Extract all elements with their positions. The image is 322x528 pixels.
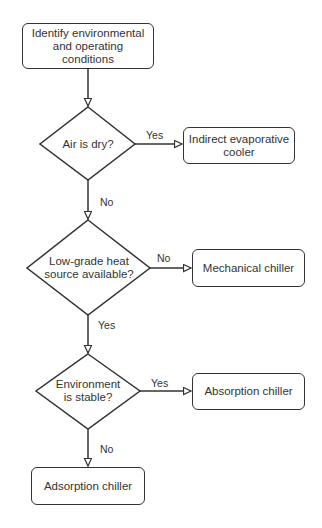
- edge-label-air-dry-yes: Yes: [146, 129, 163, 141]
- node-identify-conditions-label: Identify environmental and operating con…: [27, 27, 149, 66]
- node-identify-conditions: Identify environmental and operating con…: [22, 23, 154, 69]
- edge-label-stable-yes: Yes: [151, 377, 168, 389]
- decision-air-dry: Air is dry?: [48, 136, 128, 152]
- decision-stable: Environment is stable?: [40, 377, 136, 405]
- decision-stable-label: Environment is stable?: [56, 378, 121, 404]
- node-absorption-chiller: Absorption chiller: [192, 373, 305, 410]
- node-absorption-chiller-label: Absorption chiller: [204, 385, 292, 398]
- node-mechanical-chiller: Mechanical chiller: [192, 249, 305, 287]
- decision-heat-source-label: Low-grade heat source available?: [44, 255, 134, 281]
- edge-label-heat-source-yes: Yes: [98, 319, 115, 331]
- decision-air-dry-label: Air is dry?: [62, 138, 113, 151]
- edge-label-stable-no: No: [100, 443, 113, 455]
- edge-label-heat-source-no: No: [157, 252, 170, 264]
- node-adsorption-chiller-label: Adsorption chiller: [44, 480, 132, 493]
- edge-label-air-dry-no: No: [100, 196, 113, 208]
- node-indirect-evaporative-cooler: Indirect evaporative cooler: [183, 127, 295, 164]
- decision-heat-source: Low-grade heat source available?: [34, 254, 144, 282]
- node-adsorption-chiller: Adsorption chiller: [31, 467, 145, 505]
- node-indirect-evaporative-cooler-label: Indirect evaporative cooler: [189, 133, 289, 159]
- node-mechanical-chiller-label: Mechanical chiller: [203, 262, 294, 275]
